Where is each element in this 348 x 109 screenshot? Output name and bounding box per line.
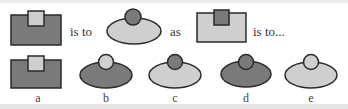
option-c-shape[interactable] — [149, 55, 201, 89]
question-shape-3 — [197, 10, 246, 42]
is-to-text-1: is to — [70, 24, 92, 40]
as-text: as — [170, 24, 181, 40]
question-shape-2 — [107, 9, 161, 44]
question-shape-1 — [11, 11, 61, 45]
bottom-border — [0, 104, 348, 109]
is-to-text-2: is to... — [253, 24, 285, 40]
option-b-shape[interactable] — [80, 55, 132, 89]
option-d-shape[interactable] — [221, 55, 271, 88]
option-e-shape[interactable] — [285, 55, 337, 89]
option-a-shape[interactable] — [11, 56, 61, 88]
